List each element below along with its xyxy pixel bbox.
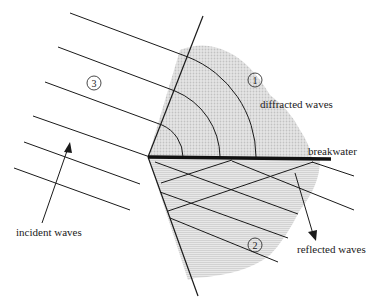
svg-text:1: 1 (253, 75, 258, 86)
arrow-head-icon (308, 230, 317, 241)
label-reflected-waves: reflected waves (297, 243, 366, 255)
wave-diagram: 1 2 3 diffracted waves breakwater reflec… (0, 0, 376, 308)
label-breakwater: breakwater (308, 145, 357, 157)
arrow-head-icon (64, 142, 72, 153)
breakwater (148, 157, 331, 159)
svg-text:2: 2 (253, 240, 258, 251)
region-marker-3: 3 (87, 76, 101, 90)
label-diffracted-waves: diffracted waves (260, 98, 333, 110)
label-incident-waves: incident waves (16, 226, 82, 238)
svg-text:3: 3 (92, 78, 97, 89)
